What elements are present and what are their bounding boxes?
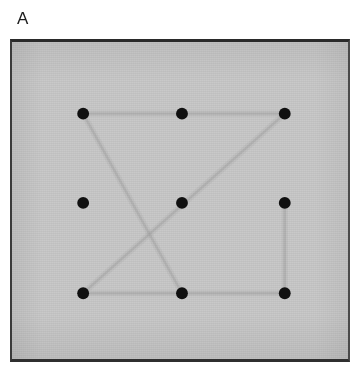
dot-marker-middle-right [279,197,291,209]
stimulus-image-frame [10,39,350,362]
panel-label: A [17,8,29,30]
nine-dot-stimulus [12,42,348,359]
dot-marker-middle-center [176,197,188,209]
dot-marker-bottom-center [176,287,188,299]
dot-marker-bottom-left [77,287,89,299]
dot-marker-top-left [77,108,89,120]
dot-marker-bottom-right [279,287,291,299]
figure-panel: A [0,0,363,367]
dot-marker-top-center [176,108,188,120]
dot-marker-middle-left [77,197,89,209]
dot-marker-top-right [279,108,291,120]
